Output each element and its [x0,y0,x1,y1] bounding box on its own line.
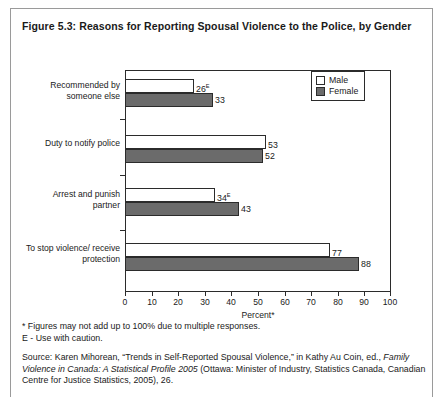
bar-value-female-2: 43 [241,202,251,216]
bar-value-female-0: 33 [215,93,225,107]
source-note: Source: Karen Mihorean, “Trends in Self-… [22,352,426,387]
bar-female-0 [125,93,213,107]
x-axis-label-7: 70 [298,297,324,307]
x-axis-label-4: 40 [218,297,244,307]
figure-page: Figure 5.3: Reasons for Reporting Spousa… [0,0,448,397]
bar-value-female-1: 52 [265,149,275,163]
x-axis-tick-8 [338,292,339,296]
legend-item-male: Male [316,75,358,86]
bar-value-female-0-text: 33 [215,95,225,105]
bar-male-0 [125,79,194,93]
category-label-2-text: Arrest and punish partner [53,189,120,210]
legend-swatch-male-icon [316,76,325,85]
legend-swatch-female-icon [316,87,325,96]
x-axis-tick-5 [258,292,259,296]
x-axis-label-3: 30 [192,297,218,307]
y-axis-tick-2 [120,230,125,231]
x-axis-tick-2 [178,292,179,296]
x-axis-label-5: 50 [245,297,271,307]
category-label-1-text: Duty to notify police [45,138,120,148]
category-label-0-text: Recommended by someone else [50,80,120,101]
bar-value-female-3-text: 88 [361,259,371,269]
source-part1: Source: Karen Mihorean, “Trends in Self-… [22,352,383,362]
x-axis-label-2: 20 [165,297,191,307]
footnotes: * Figures may not add up to 100% due to … [22,321,422,344]
bar-value-female-3: 88 [361,257,371,271]
bar-value-male-2-flag: E [227,192,231,198]
legend-label-male: Male [329,75,348,86]
category-label-0: Recommended by someone else [25,80,120,101]
x-axis-label-8: 80 [325,297,351,307]
x-axis-tick-3 [205,292,206,296]
footnote-asterisk: * Figures may not add up to 100% due to … [22,321,422,333]
legend-label-female: Female [329,86,358,97]
x-axis-tick-7 [311,292,312,296]
bar-male-1 [125,135,266,149]
x-axis-tick-10 [390,292,391,296]
y-axis-tick-0 [120,119,125,120]
chart-legend: Male Female [311,71,365,101]
x-axis-tick-1 [152,292,153,296]
x-axis-label-6: 60 [272,297,298,307]
bar-value-male-0-flag: E [206,83,210,89]
bar-female-2 [125,202,239,216]
bar-male-2 [125,188,215,202]
bar-chart: Recommended by someone else Duty to noti… [0,60,448,310]
category-label-3: To stop violence/ receive protection [25,243,120,264]
bar-female-1 [125,149,263,163]
x-axis-label-1: 10 [139,297,165,307]
footnote-e: E - Use with caution. [22,333,422,345]
page-title: Figure 5.3: Reasons for Reporting Spousa… [22,20,417,34]
x-axis-label-0: 0 [112,297,138,307]
category-label-2: Arrest and punish partner [25,189,120,210]
x-axis-tick-4 [231,292,232,296]
x-axis-tick-9 [364,292,365,296]
category-label-3-text: To stop violence/ receive protection [26,243,120,264]
y-axis-tick-1 [120,175,125,176]
x-axis-label-9: 90 [351,297,377,307]
category-label-1: Duty to notify police [25,138,120,149]
bar-female-3 [125,257,359,271]
legend-item-female: Female [316,86,358,97]
bar-male-3 [125,243,330,257]
x-axis-label-10: 100 [377,297,403,307]
x-axis-title: Percent* [125,310,391,320]
x-axis-tick-6 [285,292,286,296]
bar-value-female-1-text: 52 [265,151,275,161]
x-axis-tick-0 [125,292,126,296]
bar-value-female-2-text: 43 [241,204,251,214]
